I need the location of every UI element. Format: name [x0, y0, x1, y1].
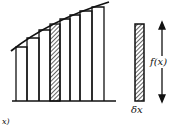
width-label: δx: [131, 105, 143, 115]
cutoff-label: x): [2, 118, 10, 125]
isolated-strip: [135, 24, 144, 101]
highlighted-strip: [50, 24, 60, 101]
height-label: f(x): [150, 57, 167, 67]
area-strips-diagram: [0, 0, 171, 125]
